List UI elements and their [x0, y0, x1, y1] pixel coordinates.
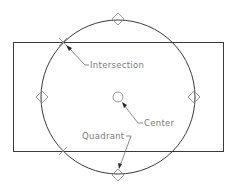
quadrant-markers [36, 13, 200, 181]
object-snap-diagram: Intersection Center Quadrant [0, 0, 233, 187]
center-label: Center [144, 118, 175, 128]
center-callout: Center [122, 102, 175, 128]
quadrant-label: Quadrant [82, 131, 125, 141]
quadrant-bottom-diamond-icon [112, 169, 124, 181]
center-marker-icon [113, 92, 123, 102]
quadrant-callout: Quadrant [82, 131, 131, 169]
intersection-callout: Intersection [66, 45, 144, 70]
intersection-markers [59, 38, 67, 155]
intersection-leader-line [70, 49, 89, 65]
intersection-label: Intersection [90, 60, 144, 70]
quadrant-top-diamond-icon [112, 13, 124, 25]
center-leader-line [124, 105, 143, 123]
quadrant-left-diamond-icon [36, 91, 48, 103]
quadrant-arrowhead-icon [118, 163, 122, 169]
center-arrowhead-icon [122, 102, 127, 108]
quadrant-right-diamond-icon [188, 91, 200, 103]
